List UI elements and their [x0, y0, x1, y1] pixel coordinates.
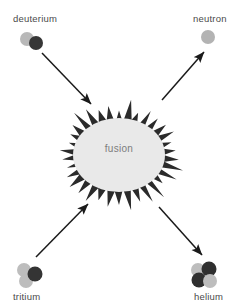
arrow-fusion-to-neutron [162, 52, 204, 100]
particle-cluster-deuterium [20, 32, 43, 50]
label-tritium: tritium [13, 292, 40, 302]
fusion-diagram-canvas: deuterium neutron tritium helium fusion [0, 0, 238, 308]
arrow-deuterium-to-fusion [42, 53, 91, 104]
nucleon-proton [28, 267, 43, 282]
label-neutron: neutron [193, 14, 227, 24]
arrow-tritium-to-fusion [36, 204, 88, 257]
label-fusion: fusion [0, 144, 238, 154]
nucleon-neutron [201, 30, 215, 44]
label-deuterium: deuterium [13, 14, 57, 24]
particle-cluster-helium [191, 262, 217, 289]
diagram-vector-layer [0, 0, 238, 308]
particle-cluster-neutron [201, 30, 215, 44]
arrow-fusion-to-helium [159, 207, 202, 255]
burst-core-shape [73, 118, 165, 192]
label-helium: helium [194, 292, 223, 302]
fusion-burst [60, 100, 183, 211]
nucleon-proton [29, 36, 43, 50]
particle-cluster-tritium [17, 263, 43, 288]
nucleon-neutron [203, 274, 217, 288]
